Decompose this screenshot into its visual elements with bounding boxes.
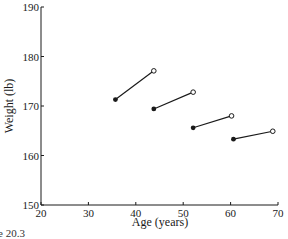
start-point-marker	[191, 125, 196, 130]
y-tick-label: 190	[23, 1, 40, 13]
end-point-marker	[270, 129, 275, 134]
end-point-marker	[191, 90, 196, 95]
x-tick-label: 60	[225, 207, 237, 219]
end-point-marker	[229, 114, 234, 119]
start-point-marker	[151, 107, 156, 112]
segment-line	[154, 92, 193, 109]
y-tick-label: 180	[23, 51, 40, 63]
figure-caption-fragment: e 20.3	[0, 227, 25, 239]
x-axis-label: Age (years)	[132, 215, 188, 229]
y-tick-label: 160	[23, 150, 40, 162]
segment-line	[193, 116, 231, 128]
start-point-marker	[231, 137, 236, 142]
segment-line	[233, 131, 272, 139]
end-point-marker	[152, 69, 157, 74]
y-axis-label: Weight (lb)	[2, 79, 16, 134]
x-tick-label: 70	[273, 207, 285, 219]
x-tick-label: 20	[36, 207, 48, 219]
chart: 150160170180190203040506070 Age (years) …	[0, 0, 288, 239]
start-point-marker	[113, 97, 118, 102]
y-tick-label: 170	[23, 100, 40, 112]
plot-area	[113, 69, 275, 142]
x-tick-label: 30	[83, 207, 95, 219]
segment-line	[115, 71, 153, 100]
